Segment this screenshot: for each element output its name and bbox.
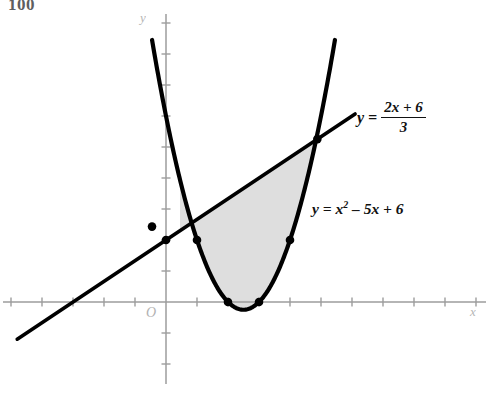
marked-point: [148, 222, 157, 231]
x-axis-label: x: [470, 304, 476, 320]
parabola-equation-main: y = x: [312, 200, 343, 217]
line-equation-numerator: 2x + 6: [381, 100, 426, 118]
marked-point: [286, 236, 295, 245]
marked-point: [313, 135, 322, 144]
line-equation-denominator: 3: [381, 118, 426, 136]
line-equation-label: y =2x + 63: [357, 101, 426, 137]
marked-point: [255, 298, 264, 307]
y-axis-label: y: [140, 10, 146, 26]
parabola-equation-label: y = x2 – 5x + 6: [312, 199, 404, 218]
origin-label: O: [146, 305, 156, 321]
marked-point: [193, 236, 202, 245]
marked-point: [162, 236, 171, 245]
parabola-equation-rest: – 5x + 6: [348, 200, 403, 217]
line-equation-lhs: y =: [357, 109, 377, 126]
line-equation-fraction: 2x + 63: [381, 100, 426, 136]
line-curve: [17, 114, 355, 339]
graph-figure: [0, 0, 496, 403]
marked-point: [224, 298, 233, 307]
